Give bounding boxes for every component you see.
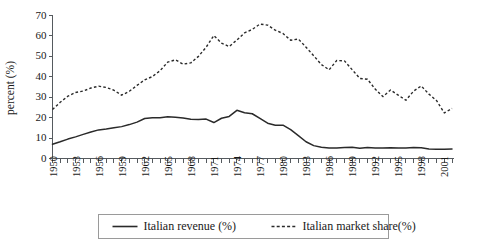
x-tick-label: 1962	[140, 156, 151, 177]
y-axis: 010203040506070	[36, 9, 53, 164]
x-tick-label: 1998	[416, 156, 427, 177]
line-chart: 010203040506070 195019531956195919621965…	[0, 0, 477, 247]
x-tick-label: 1965	[163, 156, 174, 177]
chart-legend: Italian revenue (%)Italian market share(…	[99, 215, 416, 239]
x-tick-label: 1950	[48, 156, 59, 177]
x-tick-label: 1977	[255, 156, 266, 177]
legend-item-2[interactable]: Italian market share(%)	[272, 219, 416, 233]
x-tick-label: 1953	[71, 156, 82, 177]
x-axis: 1950195319561959196219651968197119741977…	[48, 155, 455, 177]
y-axis-title: percent (%)	[4, 61, 17, 115]
x-tick-label: 1995	[393, 156, 404, 177]
legend-item-1[interactable]: Italian revenue (%)	[113, 219, 237, 233]
y-tick-label: 0	[41, 152, 47, 164]
x-tick-label: 1980	[278, 156, 289, 177]
y-tick-label: 20	[36, 111, 48, 123]
series-layer	[53, 24, 453, 149]
legend-item-label: Italian revenue (%)	[144, 219, 237, 233]
legend-item-label: Italian market share(%)	[303, 219, 416, 233]
series-line-1	[53, 110, 453, 149]
x-tick-label: 1971	[209, 156, 220, 177]
x-tick-label: 1959	[117, 156, 128, 177]
y-tick-label: 60	[36, 29, 48, 41]
y-tick-label: 10	[36, 131, 48, 143]
x-tick-label: 1992	[370, 156, 381, 177]
x-tick-label: 1989	[347, 156, 358, 177]
y-tick-label: 70	[36, 9, 48, 21]
x-tick-label: 1956	[94, 156, 105, 177]
x-tick-label: 1983	[301, 156, 312, 177]
x-tick-label: 1968	[186, 156, 197, 177]
x-tick-label: 1974	[232, 155, 243, 177]
y-tick-label: 30	[36, 90, 48, 102]
series-line-2	[53, 24, 453, 113]
x-tick-label: 1986	[324, 156, 335, 177]
y-tick-label: 40	[36, 70, 48, 82]
y-tick-label: 50	[36, 49, 48, 61]
chart-figure: 010203040506070 195019531956195919621965…	[0, 0, 477, 247]
x-tick-label: 2001	[439, 156, 450, 177]
